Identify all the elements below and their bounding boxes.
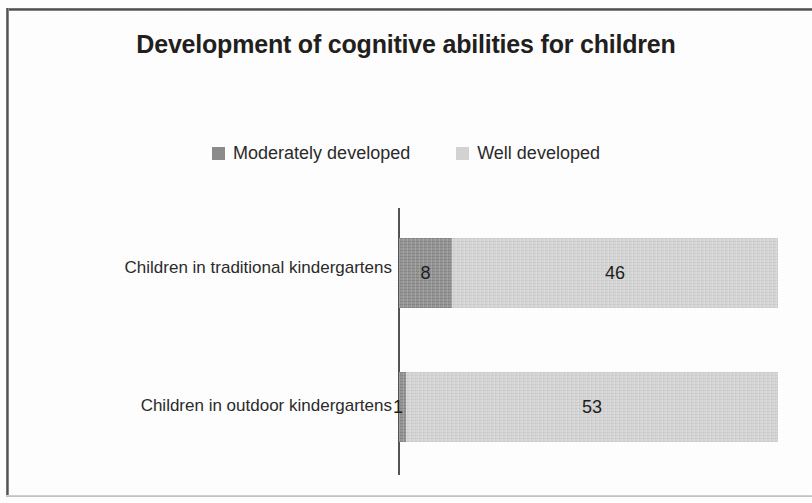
bar-data-label: 46: [605, 263, 625, 284]
bar-row[interactable]: 8 46: [399, 238, 778, 308]
scanned-chart-page: Development of cognitive abilities for c…: [0, 0, 812, 503]
bar-segment-moderately-developed[interactable]: 1: [399, 372, 406, 442]
bar-data-label: 1: [393, 397, 403, 418]
bar-segment-well-developed[interactable]: 46: [452, 238, 778, 308]
category-label-traditional-kindergartens: Children in traditional kindergartens: [2, 258, 392, 278]
stacked-bar-chart: Development of cognitive abilities for c…: [0, 0, 812, 503]
category-label-outdoor-kindergartens: Children in outdoor kindergartens: [2, 396, 392, 416]
bar-row[interactable]: 1 53: [399, 372, 778, 442]
bar-data-label: 8: [420, 263, 430, 284]
plot-area: Children in traditional kindergartens Ch…: [0, 0, 812, 503]
bar-segment-moderately-developed[interactable]: 8: [399, 238, 452, 308]
bar-segment-well-developed[interactable]: 53: [406, 372, 778, 442]
bar-data-label: 53: [582, 397, 602, 418]
